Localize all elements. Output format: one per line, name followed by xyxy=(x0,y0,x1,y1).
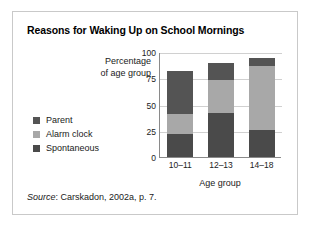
bar-segment-parent xyxy=(208,63,234,81)
x-tick-label: 10–11 xyxy=(169,160,192,170)
legend-swatch-icon xyxy=(33,117,40,124)
source-text: : Carskadon, 2002a, p. 7. xyxy=(56,192,157,202)
legend-item-alarm-clock[interactable]: Alarm clock xyxy=(33,127,99,141)
chart-legend: ParentAlarm clockSpontaneous xyxy=(33,113,99,155)
y-tick-label: 50 xyxy=(147,101,156,111)
x-tick-label: 14–18 xyxy=(250,160,274,170)
bar-segment-spontaneous xyxy=(249,130,275,157)
source-note: Source: Carskadon, 2002a, p. 7. xyxy=(27,192,157,202)
bar-segment-parent xyxy=(249,58,275,65)
x-axis-title: Age group xyxy=(159,178,281,188)
bar-segment-alarm-clock xyxy=(249,66,275,130)
x-tick-label: 12–13 xyxy=(209,160,233,170)
y-tick-label: 0 xyxy=(151,153,156,163)
source-label: Source xyxy=(27,192,56,202)
bar-14-18[interactable] xyxy=(249,58,275,157)
legend-item-parent[interactable]: Parent xyxy=(33,113,99,127)
bar-12-13[interactable] xyxy=(208,63,234,157)
gridline xyxy=(160,53,282,54)
legend-swatch-icon xyxy=(33,145,40,152)
bar-segment-parent xyxy=(167,71,193,114)
legend-label: Parent xyxy=(46,115,73,125)
legend-item-spontaneous[interactable]: Spontaneous xyxy=(33,141,99,155)
bar-segment-spontaneous xyxy=(167,134,193,157)
figure-card: Reasons for Waking Up on School Mornings… xyxy=(12,11,298,215)
legend-label: Spontaneous xyxy=(46,143,99,153)
bar-segment-spontaneous xyxy=(208,113,234,157)
bar-10-11[interactable] xyxy=(167,71,193,157)
legend-label: Alarm clock xyxy=(46,129,93,139)
bar-segment-alarm-clock xyxy=(208,80,234,113)
legend-swatch-icon xyxy=(33,131,40,138)
bar-segment-alarm-clock xyxy=(167,114,193,134)
y-tick-label: 75 xyxy=(147,74,156,84)
y-tick-label: 25 xyxy=(147,127,156,137)
plot-area: 025507510010–1112–1314–18 xyxy=(159,53,281,158)
y-tick-label: 100 xyxy=(142,48,156,58)
